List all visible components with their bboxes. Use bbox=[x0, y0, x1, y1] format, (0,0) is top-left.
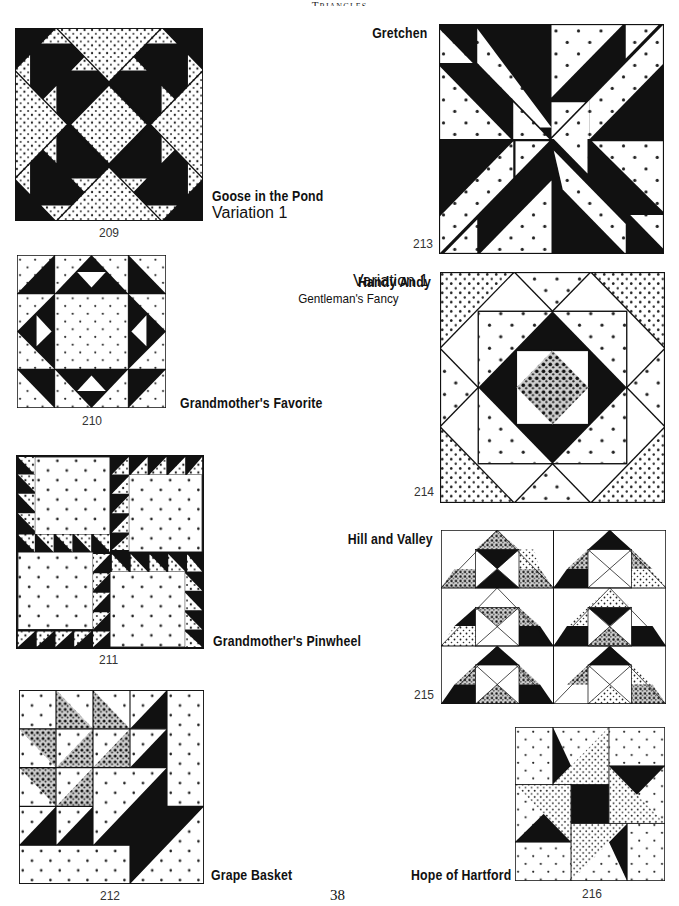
block-variation-209: Variation 1 bbox=[212, 204, 287, 222]
block-number-215: 215 bbox=[414, 688, 434, 702]
quilt-block-211 bbox=[16, 455, 204, 649]
quilt-block-210 bbox=[17, 255, 166, 408]
block-number-211: 211 bbox=[99, 653, 118, 667]
block-alt-name-214: Gentleman's Fancy bbox=[299, 291, 399, 306]
block-number-210: 210 bbox=[82, 414, 102, 428]
quilt-block-216 bbox=[515, 727, 665, 881]
block-number-209: 209 bbox=[99, 226, 119, 240]
block-title-209: Goose in the Pond bbox=[212, 187, 323, 204]
quilt-block-209 bbox=[15, 28, 203, 221]
block-title-210: Grandmother's Favorite bbox=[180, 394, 323, 411]
block-number-216: 216 bbox=[582, 887, 602, 901]
block-number-213: 213 bbox=[413, 237, 433, 251]
block-title-212: Grape Basket bbox=[211, 866, 292, 883]
block-number-212: 212 bbox=[100, 889, 120, 903]
block-variation-214: Variation 1 bbox=[353, 272, 428, 290]
quilt-block-215 bbox=[441, 530, 666, 704]
quilt-block-213 bbox=[439, 24, 664, 254]
block-title-215: Hill and Valley bbox=[348, 530, 433, 547]
block-number-214: 214 bbox=[414, 485, 434, 499]
block-title-213: Gretchen bbox=[372, 24, 427, 41]
page-number: 38 bbox=[330, 887, 345, 904]
block-title-211: Grandmother's Pinwheel bbox=[213, 632, 361, 649]
quilt-block-212 bbox=[19, 690, 204, 884]
block-title-216: Hope of Hartford bbox=[411, 866, 511, 883]
running-head: Triangles bbox=[0, 0, 679, 6]
quilt-block-214 bbox=[440, 272, 665, 503]
